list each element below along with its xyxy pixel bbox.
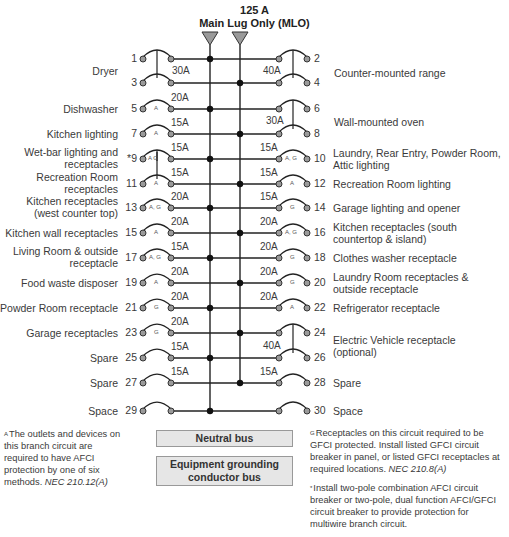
breaker-terminal	[276, 181, 282, 187]
circuit-number: 27	[125, 376, 137, 388]
breaker-amperage: 15A	[260, 167, 278, 178]
protection-tag: A	[290, 180, 294, 186]
breaker-terminal	[304, 131, 310, 137]
circuit-number: 13	[125, 201, 137, 213]
circuit-label: Powder Room receptacle	[0, 302, 118, 314]
circuit-number: 17	[125, 251, 137, 263]
bus-connection-dot	[207, 255, 213, 261]
ground-bus-label-2: conductor bus	[188, 471, 261, 483]
breaker-terminal	[304, 205, 310, 211]
circuit-label: Spare	[0, 377, 118, 389]
protection-tag: G	[290, 204, 295, 210]
breaker-amperage: 20A	[171, 216, 189, 227]
circuit-number: 26	[314, 351, 326, 363]
breaker-terminal	[304, 330, 310, 336]
breaker-terminal	[276, 305, 282, 311]
protection-tag: A, G	[285, 229, 297, 235]
circuit-number: 30	[314, 404, 326, 416]
afci-mark: A	[4, 431, 8, 437]
oven-amperage: 30A	[266, 115, 284, 126]
protection-tag: A, G	[149, 254, 161, 260]
breaker-amperage: 20A	[171, 191, 189, 202]
circuit-number: 12	[314, 177, 326, 189]
circuit-number: 14	[314, 201, 326, 213]
circuit-label: Food waste disposer	[0, 277, 118, 289]
circuit-label: Wet-bar lighting and receptacles	[0, 146, 118, 170]
breaker-terminal	[168, 255, 174, 261]
circuit-number: 2	[314, 52, 320, 64]
ev-amperage: 40A	[263, 340, 281, 351]
breaker-amperage: 15A	[171, 366, 189, 377]
circuit-label: Space	[0, 405, 118, 417]
breaker-terminal	[140, 205, 146, 211]
circuit-number: 4	[314, 76, 320, 88]
circuit-number: 16	[314, 226, 326, 238]
breaker-terminal	[304, 380, 310, 386]
circuit-label: Garage receptacles	[0, 327, 118, 339]
gfci-note: GReceptacles on this circuit required to…	[310, 427, 506, 475]
breaker-terminal	[168, 106, 174, 112]
circuit-label: Refrigerator receptacle	[333, 302, 505, 314]
bus-connection-dot	[237, 131, 243, 137]
star-mark: *	[310, 485, 312, 491]
breaker-terminal	[140, 106, 146, 112]
circuit-number: 7	[131, 127, 137, 139]
bus-connection-dot	[207, 408, 213, 414]
breaker-terminal	[168, 230, 174, 236]
breaker-terminal	[304, 56, 310, 62]
breaker-terminal	[140, 280, 146, 286]
breaker-amperage: 15A	[171, 142, 189, 153]
protection-tag: G	[154, 329, 159, 335]
star-text: Install two-pole combination AFCI circui…	[310, 483, 496, 529]
circuit-label: Living Room & outside receptacle	[0, 245, 118, 269]
breaker-terminal	[276, 131, 282, 137]
circuit-label: Laundry Room receptacles & outside recep…	[333, 271, 505, 295]
protection-tag: G	[290, 254, 295, 260]
breaker-terminal	[304, 230, 310, 236]
gfci-mark: G	[310, 430, 315, 436]
breaker-amperage: 15A	[260, 191, 278, 202]
ev-label-1: Electric Vehicle receptacle	[333, 334, 456, 346]
bus-connection-dot	[207, 156, 213, 162]
breaker-terminal	[304, 355, 310, 361]
left-breaker-arc	[143, 374, 171, 381]
circuit-number: 20	[314, 276, 326, 288]
breaker-amperage: 15A	[171, 167, 189, 178]
afci-note: AThe outlets and devices on this branch …	[4, 428, 126, 488]
breaker-terminal	[168, 131, 174, 137]
breaker-terminal	[304, 280, 310, 286]
bus-connection-dot	[237, 280, 243, 286]
protection-tag-ag: A G	[148, 155, 158, 161]
circuit-label: Kitchen wall receptacles	[0, 227, 118, 239]
breaker-terminal	[140, 181, 146, 187]
breaker-terminal	[168, 380, 174, 386]
breaker-amperage: 20A	[171, 291, 189, 302]
breaker-amperage: 20A	[260, 291, 278, 302]
breaker-terminal	[140, 380, 146, 386]
protection-tag: G	[154, 304, 159, 310]
breaker-terminal	[276, 330, 282, 336]
breaker-amperage: 15A	[171, 241, 189, 252]
protection-tag: G	[290, 279, 295, 285]
range-amperage: 40A	[263, 65, 281, 76]
range-label: Counter-mounted range	[334, 67, 446, 79]
breaker-terminal	[168, 80, 174, 86]
circuit-number: *9	[127, 152, 137, 164]
breaker-terminal	[168, 305, 174, 311]
circuit-label: Spare	[333, 377, 505, 389]
breaker-terminal	[304, 80, 310, 86]
breaker-terminal	[168, 408, 174, 414]
circuit-label: Clothes washer receptacle	[333, 252, 505, 264]
breaker-terminal	[304, 255, 310, 261]
left-breaker-arc	[143, 402, 171, 409]
breaker-terminal	[140, 230, 146, 236]
dryer-label: Dryer	[38, 65, 118, 77]
circuit-number: 1	[131, 52, 137, 64]
ground-bus: Equipment grounding conductor bus	[156, 456, 293, 486]
breaker-terminal	[140, 56, 146, 62]
breaker-terminal	[140, 355, 146, 361]
circuit-label: Laundry, Rear Entry, Powder Room, Attic …	[333, 147, 505, 171]
circuit-number: 25	[125, 351, 137, 363]
breaker-terminal	[304, 305, 310, 311]
breaker-terminal	[304, 181, 310, 187]
